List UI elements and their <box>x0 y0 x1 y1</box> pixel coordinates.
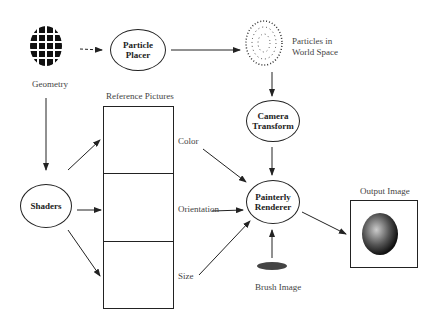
geometry-mesh-icon <box>30 26 62 66</box>
node-label: Renderer <box>255 202 291 212</box>
node-label: Camera <box>257 111 288 121</box>
size-label: Size <box>178 271 194 282</box>
diagram-canvas <box>0 0 440 322</box>
color-label: Color <box>178 136 199 147</box>
label-line: Particles in <box>292 36 332 46</box>
node-label: Transform <box>252 121 293 131</box>
camera-transform-node: CameraTransform <box>246 100 300 142</box>
particles-cloud-icon <box>246 21 282 65</box>
brush-stroke-icon <box>257 262 287 270</box>
geometry-label: Geometry <box>32 79 68 90</box>
particle-placer-node: ParticlePlacer <box>110 29 166 71</box>
brush-image-label: Brush Image <box>255 282 301 293</box>
reference-size-box <box>103 241 174 309</box>
orientation-label: Orientation <box>178 204 219 215</box>
node-label: Shaders <box>30 201 61 211</box>
particles-world-label: Particles in World Space <box>292 36 338 58</box>
reference-orientation-box <box>103 173 174 242</box>
output-image-box <box>350 200 418 268</box>
node-label: Particle <box>123 40 153 50</box>
shaders-node: Shaders <box>20 184 72 228</box>
reference-color-box <box>103 106 174 174</box>
node-label: Painterly <box>255 192 291 202</box>
output-image-label: Output Image <box>360 186 410 197</box>
node-label: Placer <box>126 50 150 60</box>
label-line: World Space <box>292 47 338 57</box>
painterly-renderer-node: PainterlyRenderer <box>246 180 300 224</box>
reference-pictures-label: Reference Pictures <box>106 91 174 102</box>
